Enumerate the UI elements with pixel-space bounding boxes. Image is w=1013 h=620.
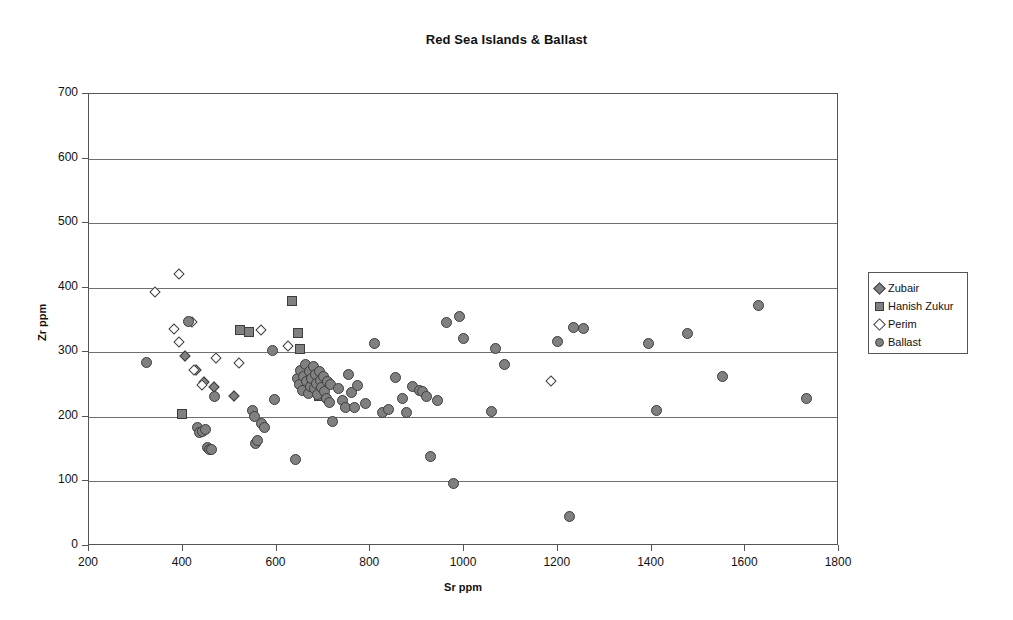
data-point-ballast xyxy=(369,338,380,349)
data-point-hanish-zukur xyxy=(177,409,187,419)
x-tick-mark-200 xyxy=(88,545,89,551)
data-point-zubair xyxy=(229,390,240,401)
data-point-ballast xyxy=(259,422,270,433)
x-tick-mark-400 xyxy=(182,545,183,551)
data-point-ballast xyxy=(397,393,408,404)
chart-title: Red Sea Islands & Ballast xyxy=(0,32,1013,47)
data-point-ballast xyxy=(252,435,263,446)
x-tick-label-1000: 1000 xyxy=(433,555,493,569)
legend-item-hanish-zukur[interactable]: Hanish Zukur xyxy=(875,297,962,315)
y-tick-mark-700 xyxy=(82,93,88,94)
legend-item-zubair[interactable]: Zubair xyxy=(875,279,962,297)
y-axis-title: Zr ppm xyxy=(36,304,48,341)
data-point-ballast xyxy=(343,369,354,380)
y-tick-label-600: 600 xyxy=(26,150,78,164)
x-tick-label-400: 400 xyxy=(152,555,212,569)
data-point-ballast xyxy=(209,391,220,402)
legend-item-ballast[interactable]: Ballast xyxy=(875,333,962,351)
data-point-perim xyxy=(210,352,221,363)
data-point-ballast xyxy=(454,311,465,322)
data-point-ballast xyxy=(352,380,363,391)
data-point-ballast xyxy=(200,424,211,435)
data-point-hanish-zukur xyxy=(244,327,254,337)
x-tick-label-1800: 1800 xyxy=(808,555,868,569)
data-point-ballast xyxy=(682,328,693,339)
data-point-ballast xyxy=(290,454,301,465)
data-point-ballast xyxy=(269,394,280,405)
x-tick-label-1600: 1600 xyxy=(714,555,774,569)
y-tick-label-700: 700 xyxy=(26,85,78,99)
x-tick-label-200: 200 xyxy=(58,555,118,569)
chart-root: Red Sea Islands & Ballast 01002003004005… xyxy=(0,0,1013,620)
gridline-y-100 xyxy=(89,481,837,482)
data-point-ballast xyxy=(349,402,360,413)
data-point-ballast xyxy=(324,397,335,408)
legend-item-perim[interactable]: Perim xyxy=(875,315,962,333)
data-point-ballast xyxy=(206,444,217,455)
legend-label: Ballast xyxy=(888,336,921,348)
x-tick-mark-1200 xyxy=(557,545,558,551)
y-tick-mark-300 xyxy=(82,351,88,352)
gridline-y-200 xyxy=(89,417,837,418)
legend-swatch-diamond-open-icon xyxy=(873,318,886,331)
y-tick-label-100: 100 xyxy=(26,472,78,486)
y-tick-mark-100 xyxy=(82,480,88,481)
gridline-y-500 xyxy=(89,223,837,224)
plot-area xyxy=(88,93,838,545)
gridline-y-400 xyxy=(89,288,837,289)
data-point-ballast xyxy=(390,372,401,383)
data-point-ballast xyxy=(717,371,728,382)
gridline-y-300 xyxy=(89,352,837,353)
data-point-ballast xyxy=(552,336,563,347)
data-point-hanish-zukur xyxy=(295,344,305,354)
data-point-perim xyxy=(546,376,557,387)
data-point-ballast xyxy=(432,395,443,406)
data-point-hanish-zukur xyxy=(287,296,297,306)
data-point-ballast xyxy=(421,391,432,402)
data-point-perim xyxy=(283,341,294,352)
x-tick-mark-600 xyxy=(276,545,277,551)
x-tick-mark-1400 xyxy=(651,545,652,551)
data-point-ballast xyxy=(267,345,278,356)
y-tick-label-200: 200 xyxy=(26,408,78,422)
data-point-ballast xyxy=(327,416,338,427)
x-tick-label-1400: 1400 xyxy=(621,555,681,569)
data-point-ballast xyxy=(801,393,812,404)
data-point-ballast xyxy=(578,323,589,334)
y-tick-label-300: 300 xyxy=(26,343,78,357)
data-point-hanish-zukur xyxy=(293,328,303,338)
data-point-ballast xyxy=(141,357,152,368)
data-point-ballast xyxy=(651,405,662,416)
legend-label: Zubair xyxy=(888,282,919,294)
data-point-ballast xyxy=(486,406,497,417)
data-point-ballast xyxy=(448,478,459,489)
x-tick-mark-1600 xyxy=(744,545,745,551)
data-point-ballast xyxy=(499,359,510,370)
data-point-ballast xyxy=(458,333,469,344)
legend-label: Perim xyxy=(888,318,917,330)
data-point-ballast xyxy=(360,398,371,409)
data-point-perim xyxy=(173,336,184,347)
legend-swatch-diamond-filled-icon xyxy=(873,282,886,295)
x-axis-title: Sr ppm xyxy=(363,581,563,593)
x-tick-label-800: 800 xyxy=(339,555,399,569)
data-point-ballast xyxy=(753,300,764,311)
x-tick-mark-1000 xyxy=(463,545,464,551)
x-tick-mark-1800 xyxy=(838,545,839,551)
x-tick-mark-800 xyxy=(369,545,370,551)
y-tick-label-500: 500 xyxy=(26,214,78,228)
data-point-ballast xyxy=(383,404,394,415)
data-point-ballast xyxy=(425,451,436,462)
y-tick-mark-200 xyxy=(82,416,88,417)
x-tick-label-1200: 1200 xyxy=(527,555,587,569)
data-point-ballast xyxy=(441,317,452,328)
data-point-perim xyxy=(169,323,180,334)
y-tick-label-0: 0 xyxy=(26,537,78,551)
legend-label: Hanish Zukur xyxy=(888,300,953,312)
y-tick-mark-500 xyxy=(82,222,88,223)
gridline-y-600 xyxy=(89,159,837,160)
data-point-ballast xyxy=(333,383,344,394)
data-point-perim xyxy=(173,268,184,279)
data-point-perim xyxy=(233,358,244,369)
data-point-ballast xyxy=(183,316,194,327)
